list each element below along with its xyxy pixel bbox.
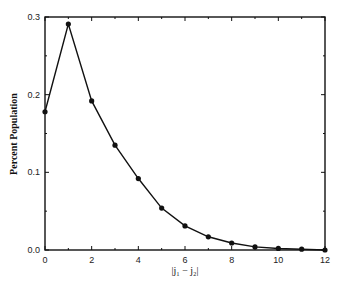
data-point <box>276 246 281 251</box>
y-tick-label: 0.3 <box>27 12 40 22</box>
data-line <box>45 24 325 250</box>
chart: 0246810120.00.10.20.3 Percent Population… <box>0 0 347 285</box>
data-point <box>112 143 117 148</box>
x-tick-label: 8 <box>229 255 234 265</box>
data-point <box>252 244 257 249</box>
data-point <box>89 98 94 103</box>
x-tick-label: 2 <box>89 255 94 265</box>
data-point <box>322 247 327 252</box>
data-point <box>206 234 211 239</box>
x-tick-label: 10 <box>273 255 283 265</box>
y-tick-label: 0.1 <box>27 167 40 177</box>
plot-frame <box>45 17 325 250</box>
x-tick-label: 12 <box>320 255 330 265</box>
y-tick-label: 0.2 <box>27 90 40 100</box>
x-tick-label: 6 <box>182 255 187 265</box>
y-tick-label: 0.0 <box>27 245 40 255</box>
data-point <box>159 205 164 210</box>
data-point <box>66 21 71 26</box>
x-tick-label: 0 <box>42 255 47 265</box>
data-point <box>42 109 47 114</box>
x-axis-label: |j₁ − j₂| <box>171 265 198 276</box>
y-axis-label: Percent Population <box>8 93 19 175</box>
data-point <box>229 240 234 245</box>
data-markers <box>42 21 327 252</box>
x-tick-label: 4 <box>136 255 141 265</box>
tick-labels: 0246810120.00.10.20.3 <box>27 12 330 265</box>
data-point <box>299 247 304 252</box>
data-point <box>182 223 187 228</box>
data-point <box>136 176 141 181</box>
axis-ticks <box>45 17 325 250</box>
